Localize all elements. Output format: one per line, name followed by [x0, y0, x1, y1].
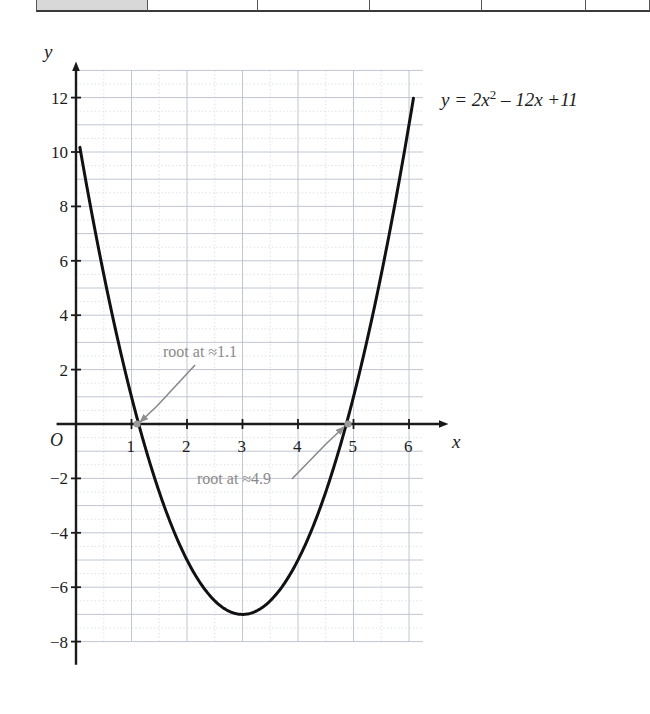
parabola-curve [80, 98, 414, 614]
y-axis-label: y [44, 42, 52, 61]
y-tick-label: 12 [34, 90, 68, 107]
quadratic-graph-figure: y x O y = 2x2 – 12x +11 12345612108642−2… [0, 0, 650, 714]
origin-label: O [50, 430, 63, 451]
y-tick-label: 2 [34, 362, 68, 379]
y-tick-label: −2 [34, 470, 68, 487]
equation-prefix: y = 2x [441, 89, 490, 110]
x-axis-label: x [452, 432, 460, 451]
x-tick-label: 1 [127, 438, 136, 455]
y-tick-label: −4 [34, 525, 68, 542]
y-tick-label: −6 [34, 579, 68, 596]
y-tick-label: 6 [34, 253, 68, 270]
y-tick-label: 8 [34, 198, 68, 215]
x-tick-label: 2 [182, 438, 191, 455]
y-tick-label: −8 [34, 634, 68, 651]
x-tick-label: 5 [349, 438, 358, 455]
y-tick-label: 10 [34, 144, 68, 161]
x-tick-label: 6 [404, 438, 413, 455]
equation-suffix: – 12x +11 [496, 89, 578, 110]
equation-label: y = 2x2 – 12x +11 [441, 89, 578, 109]
annotation-root-2-label: root at ≈4.9 [197, 471, 271, 487]
x-tick-label: 4 [293, 438, 302, 455]
y-tick-label: 4 [34, 307, 68, 324]
annotation-root-1-label: root at ≈1.1 [163, 344, 237, 360]
x-tick-label: 3 [238, 438, 247, 455]
grid-minor-lines [76, 70, 423, 641]
